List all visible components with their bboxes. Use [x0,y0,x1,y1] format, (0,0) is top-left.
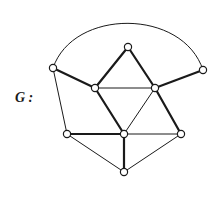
vertex-D [91,84,98,91]
edge-A-D [53,68,95,88]
vertex-C [199,66,206,73]
vertex-B [124,43,131,50]
vertex-J [120,168,127,175]
graph-canvas [0,0,222,197]
edge-B-E [128,47,155,88]
edge-E-H [124,88,155,134]
vertex-I [177,130,184,137]
edge-E-I [155,88,181,134]
vertex-H [120,130,127,137]
edge-C-E [155,70,203,88]
edge-B-D [95,47,128,88]
vertex-E [151,84,158,91]
edge-F-J [67,134,124,172]
graph-label: G : [15,90,33,106]
vertex-F [63,130,70,137]
edge-A-F [53,68,67,134]
vertex-layer [49,43,206,175]
edge-I-J [124,134,181,172]
vertex-A [49,64,56,71]
edge-D-H [95,88,124,134]
